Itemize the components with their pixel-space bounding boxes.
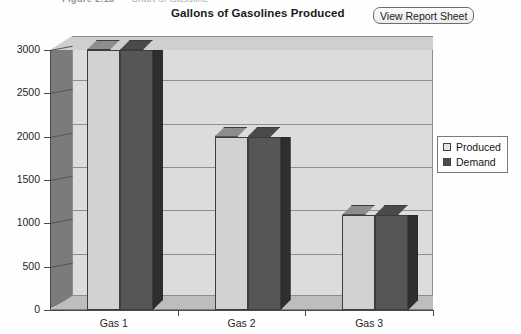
bar-front-face [248, 137, 281, 310]
legend-item-produced: Produced [443, 141, 501, 153]
bar-side-face [408, 215, 418, 310]
bar-gas-1-produced [87, 50, 120, 310]
bar-gas-3-demand [375, 215, 408, 310]
legend-label-demand: Demand [456, 156, 496, 168]
bar-front-face [87, 50, 120, 310]
legend-swatch-icon-demand [443, 158, 451, 166]
x-tick-label: Gas 3 [355, 317, 383, 329]
y-tick: 0 [44, 310, 51, 311]
bar-front-face [215, 137, 248, 310]
y-tick-label: 2000 [17, 130, 40, 142]
bar-gas-3-produced [342, 215, 375, 310]
chart-screenshot: Figure 2.13 Chart of Gasoline Gallons of… [0, 0, 521, 334]
x-tick-mark [305, 310, 306, 316]
y-tick: 3000 [44, 50, 51, 51]
legend-swatch-icon-produced [443, 143, 451, 151]
y-tick-label: 500 [22, 260, 40, 272]
y-tick: 2500 [44, 93, 51, 94]
y-tick-mark [44, 50, 51, 51]
bar-side-face [281, 137, 291, 310]
y-tick: 1500 [44, 180, 51, 181]
x-tick-mark [178, 310, 179, 316]
bar-gas-2-produced [215, 137, 248, 310]
y-tick-label: 1500 [17, 173, 40, 185]
y-tick: 500 [44, 267, 51, 268]
y-tick-mark [44, 93, 51, 94]
legend-label-produced: Produced [456, 141, 501, 153]
bar-side-face [153, 50, 163, 310]
y-tick-mark [44, 223, 51, 224]
x-tick-label: Gas 2 [227, 317, 255, 329]
y-tick-mark [44, 267, 51, 268]
legend-item-demand: Demand [443, 156, 501, 168]
y-tick-mark [44, 180, 51, 181]
y-tick-label: 0 [34, 303, 40, 315]
bar-gas-2-demand [248, 137, 281, 310]
chart-legend: Produced Demand [437, 136, 508, 173]
y-tick-label: 2500 [17, 86, 40, 98]
x-tick-label: Gas 1 [100, 317, 128, 329]
x-axis-line [50, 310, 433, 311]
chart-top-edge-line [72, 36, 433, 37]
y-tick-label: 1000 [17, 216, 40, 228]
bar-front-face [120, 50, 153, 310]
y-tick-label: 3000 [17, 43, 40, 55]
y-tick-mark [44, 310, 51, 311]
bar-gas-1-demand [120, 50, 153, 310]
bar-front-face [342, 215, 375, 310]
x-tick-mark [433, 310, 434, 316]
y-tick-mark [44, 137, 51, 138]
y-tick: 2000 [44, 137, 51, 138]
bar-front-face [375, 215, 408, 310]
y-tick: 1000 [44, 223, 51, 224]
